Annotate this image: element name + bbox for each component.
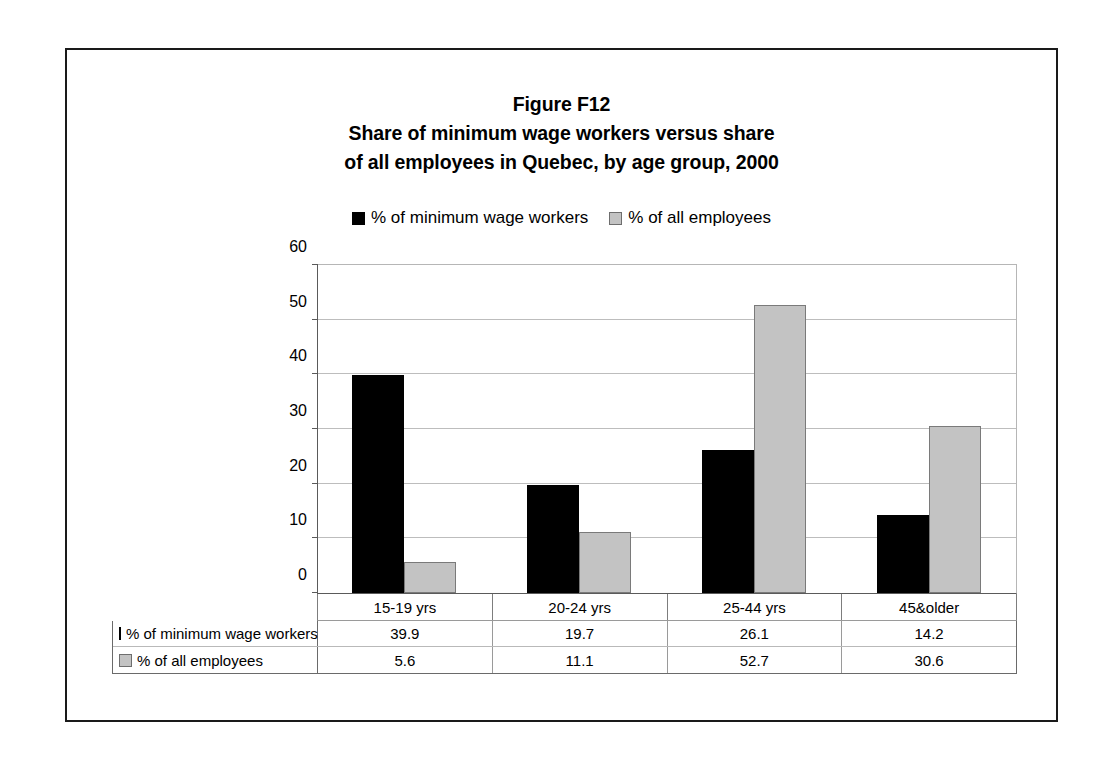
- table-cell: 11.1: [493, 647, 668, 673]
- y-tick-label: 40: [289, 347, 307, 365]
- y-tick-label: 30: [289, 402, 307, 420]
- category-label: 15-19 yrs: [374, 599, 437, 616]
- category-label: 25-44 yrs: [723, 599, 786, 616]
- bar: [579, 532, 631, 593]
- chart-data-table: % of minimum wage workers39.919.726.114.…: [112, 621, 1017, 674]
- bar: [404, 562, 456, 593]
- outlined-square-icon: [119, 654, 132, 667]
- table-row-label: % of minimum wage workers: [113, 621, 318, 646]
- category-axis-band: 15-19 yrs20-24 yrs25-44 yrs45&older: [317, 594, 1017, 621]
- figure-title-line-1: Share of minimum wage workers versus sha…: [67, 119, 1056, 148]
- legend-label-minimum-wage-workers: % of minimum wage workers: [371, 208, 588, 228]
- legend-entry-minimum-wage-workers: % of minimum wage workers: [352, 208, 588, 228]
- category-label: 20-24 yrs: [548, 599, 611, 616]
- chart-legend: % of minimum wage workers % of all emplo…: [67, 208, 1056, 228]
- figure-title: Figure F12 Share of minimum wage workers…: [67, 90, 1056, 177]
- category-label-cell: 25-44 yrs: [668, 594, 843, 620]
- category-label-cell: 20-24 yrs: [493, 594, 668, 620]
- figure-number: Figure F12: [67, 90, 1056, 119]
- table-cell: 39.9: [318, 621, 493, 646]
- outlined-square-icon: [609, 212, 622, 225]
- bar: [527, 485, 579, 593]
- figure-frame: Figure F12 Share of minimum wage workers…: [65, 48, 1058, 722]
- y-tick-label: 20: [289, 457, 307, 475]
- y-tick-label: 10: [289, 511, 307, 529]
- bar-group: [318, 265, 493, 593]
- category-label-cell: 15-19 yrs: [318, 594, 493, 620]
- table-row: % of minimum wage workers39.919.726.114.…: [113, 621, 1016, 647]
- table-cell: 19.7: [493, 621, 668, 646]
- figure-title-line-2: of all employees in Quebec, by age group…: [67, 148, 1056, 177]
- bar: [754, 305, 806, 593]
- bar-group: [668, 265, 843, 593]
- table-row-label: % of all employees: [113, 647, 318, 673]
- y-tick-label: 50: [289, 293, 307, 311]
- filled-square-icon: [352, 212, 365, 225]
- bar: [929, 426, 981, 593]
- table-cell: 14.2: [842, 621, 1016, 646]
- table-cell: 30.6: [842, 647, 1016, 673]
- table-cell: 5.6: [318, 647, 493, 673]
- category-label-cell: 45&older: [842, 594, 1016, 620]
- legend-entry-all-employees: % of all employees: [609, 208, 771, 228]
- table-row-label-text: % of minimum wage workers: [126, 625, 318, 642]
- y-tick-label: 60: [289, 238, 307, 256]
- filled-square-icon: [119, 627, 121, 640]
- bar: [352, 375, 404, 593]
- bar-group: [843, 265, 1018, 593]
- bar: [877, 515, 929, 593]
- table-cell: 26.1: [668, 621, 843, 646]
- bar-group: [493, 265, 668, 593]
- plot-area: 0102030405060: [317, 264, 1017, 594]
- bar: [702, 450, 754, 593]
- plot-wrapper: 0102030405060: [317, 264, 1017, 594]
- category-label: 45&older: [899, 599, 959, 616]
- table-row-label-text: % of all employees: [137, 652, 263, 669]
- legend-label-all-employees: % of all employees: [628, 208, 771, 228]
- y-tick-label: 0: [298, 566, 307, 584]
- table-cell: 52.7: [668, 647, 843, 673]
- table-row: % of all employees5.611.152.730.6: [113, 647, 1016, 673]
